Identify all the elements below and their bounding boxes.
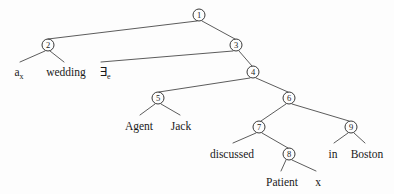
- tree-node-2[interactable]: 2: [42, 39, 55, 52]
- tree-edge: [48, 21, 197, 39]
- tree-edge: [101, 51, 233, 62]
- tree-node-9[interactable]: 9: [345, 121, 358, 134]
- tree-node-5[interactable]: 5: [152, 92, 165, 105]
- leaf-text: Agent: [125, 120, 153, 132]
- tree-edge: [354, 133, 365, 143]
- tree-edge: [292, 104, 349, 121]
- leaf-text: Boston: [351, 148, 384, 160]
- tree-edge: [239, 51, 252, 66]
- leaf-text: wedding: [46, 66, 86, 78]
- tree-leaf-wedding: wedding: [46, 66, 86, 79]
- tree-node-8[interactable]: 8: [283, 148, 296, 161]
- tree-node-3[interactable]: 3: [230, 39, 243, 52]
- tree-edge-layer: [0, 0, 394, 194]
- tree-leaf-x: x: [315, 176, 321, 189]
- tree-edge: [262, 133, 288, 148]
- tree-edge: [292, 160, 316, 171]
- leaf-subscript: x: [20, 72, 24, 81]
- tree-leaf-boston: Boston: [351, 148, 384, 161]
- syntax-tree-figure: 123456789axwedding∃eAgentJackdiscussedin…: [0, 0, 394, 194]
- tree-leaf-patient: Patient: [266, 176, 298, 189]
- tree-leaf-exists: ∃e: [99, 66, 110, 79]
- tree-leaf-agent: Agent: [125, 120, 153, 133]
- tree-edge: [140, 104, 155, 115]
- tree-node-6[interactable]: 6: [283, 92, 296, 105]
- tree-edge: [334, 133, 348, 143]
- leaf-text: Jack: [171, 120, 191, 132]
- tree-edge: [20, 51, 45, 62]
- tree-edge: [50, 51, 64, 62]
- tree-edge: [261, 104, 286, 121]
- tree-edge: [202, 21, 235, 39]
- leaf-text: Patient: [266, 176, 298, 188]
- tree-node-7[interactable]: 7: [253, 121, 266, 134]
- leaf-text: in: [329, 148, 338, 160]
- leaf-text: ∃: [99, 65, 107, 79]
- leaf-text: discussed: [210, 148, 254, 160]
- tree-leaf-jack: Jack: [171, 120, 191, 133]
- tree-node-4[interactable]: 4: [247, 66, 260, 79]
- tree-node-1[interactable]: 1: [193, 9, 206, 22]
- tree-edge: [281, 160, 286, 171]
- tree-edge: [161, 104, 180, 115]
- tree-leaf-a: ax: [14, 66, 23, 79]
- leaf-text: x: [315, 176, 321, 188]
- tree-leaf-discussed: discussed: [210, 148, 254, 161]
- leaf-subscript: e: [107, 72, 111, 81]
- tree-edge: [159, 78, 250, 92]
- tree-edge: [233, 133, 256, 143]
- tree-edge: [256, 78, 288, 92]
- tree-leaf-in: in: [329, 148, 338, 161]
